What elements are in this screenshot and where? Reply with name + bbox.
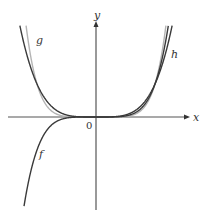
curve-label-h: h xyxy=(171,48,178,61)
x-axis-label: x xyxy=(193,111,200,124)
function-graph: x y 0 g h f xyxy=(0,0,204,214)
y-axis-label: y xyxy=(93,9,101,22)
curve-label-g: g xyxy=(36,34,43,47)
curve-label-f: f xyxy=(38,148,45,161)
x-axis-arrow-icon xyxy=(184,115,190,120)
origin-label: 0 xyxy=(86,120,92,131)
